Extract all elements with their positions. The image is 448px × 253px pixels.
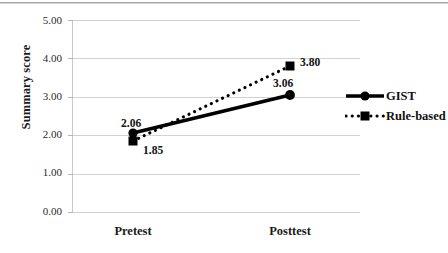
- series-line-rule-based: [133, 66, 290, 141]
- marker-rule-based-posttest: [286, 62, 295, 71]
- point-label-rule-based-posttest: 3.80: [300, 56, 320, 68]
- legend-item-rule-based: Rule-based: [345, 106, 448, 126]
- legend-symbol-rule-based-line-icon: [345, 107, 385, 125]
- y-tick-label-4: 4.00: [16, 52, 62, 64]
- y-tick-label-3: 3.00: [16, 90, 62, 102]
- x-tick-label-posttest: Posttest: [225, 224, 355, 239]
- x-tick-label-pretest: Pretest: [68, 224, 198, 239]
- y-tick-label-2: 2.00: [16, 128, 62, 140]
- marker-gist-posttest: [285, 90, 295, 100]
- legend-label-gist: GIST: [386, 89, 416, 104]
- top-border-rule: [0, 2, 448, 4]
- legend-item-gist: GIST: [345, 86, 448, 106]
- series-line-gist: [133, 95, 290, 133]
- point-label-rule-based-pretest: 1.85: [143, 144, 163, 156]
- y-tick-label-0: 0.00: [16, 205, 62, 217]
- y-tick-label-5: 5.00: [16, 14, 62, 26]
- chart-figure: Summary score 0.00 1.00 2.00 3.00 4.00 5…: [0, 0, 448, 253]
- point-label-gist-posttest: 3.06: [273, 77, 293, 89]
- plot-area: 2.06 1.85 3.80 3.06: [73, 20, 360, 212]
- legend-label-rule-based: Rule-based: [386, 109, 446, 124]
- y-tick-label-1: 1.00: [16, 166, 62, 178]
- point-label-gist-pretest: 2.06: [121, 117, 141, 129]
- y-tick-mark-0: [68, 212, 73, 213]
- marker-gist-pretest: [128, 128, 137, 137]
- series-layer: [73, 20, 360, 212]
- gridline-0: [73, 212, 360, 213]
- legend-symbol-gist-line-icon: [345, 87, 385, 105]
- marker-rule-based-pretest: [129, 137, 138, 146]
- chart-legend: GIST Rule-based: [345, 86, 448, 126]
